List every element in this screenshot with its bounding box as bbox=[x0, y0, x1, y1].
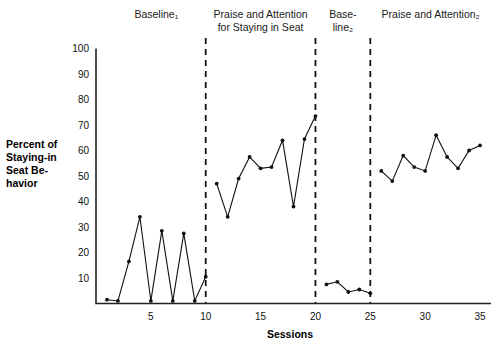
y-tick-label: 100 bbox=[72, 43, 89, 54]
data-point bbox=[182, 231, 186, 235]
data-point bbox=[401, 154, 405, 158]
y-tick-label: 20 bbox=[78, 247, 90, 258]
data-point bbox=[149, 299, 153, 303]
y-axis-title-line: havior bbox=[6, 177, 38, 189]
data-point bbox=[160, 229, 164, 233]
y-tick-label: 60 bbox=[78, 145, 90, 156]
data-point bbox=[379, 169, 383, 173]
data-point bbox=[116, 299, 120, 303]
x-tick-label: 20 bbox=[310, 311, 322, 322]
data-point bbox=[478, 144, 482, 148]
data-point bbox=[281, 138, 285, 142]
data-point bbox=[237, 177, 241, 181]
data-point bbox=[138, 215, 142, 219]
data-point bbox=[445, 155, 449, 159]
data-point bbox=[171, 299, 175, 303]
data-point bbox=[270, 165, 274, 169]
x-tick-label: 5 bbox=[148, 311, 154, 322]
y-tick-label: 40 bbox=[78, 196, 90, 207]
x-tick-label: 35 bbox=[474, 311, 486, 322]
data-point bbox=[357, 288, 361, 292]
x-tick-label: 30 bbox=[420, 311, 432, 322]
data-point bbox=[226, 215, 230, 219]
data-point bbox=[467, 149, 471, 153]
chart-container: Baseline₁Praise and Attentionfor Staying… bbox=[0, 0, 495, 344]
x-tick-label: 10 bbox=[200, 311, 212, 322]
phase-label-baseline-2: Base- bbox=[329, 8, 357, 20]
data-point bbox=[325, 282, 329, 286]
data-point bbox=[303, 137, 307, 141]
x-tick-label: 15 bbox=[255, 311, 267, 322]
y-axis-title-line: Staying-in bbox=[6, 151, 57, 163]
data-point bbox=[127, 260, 131, 264]
x-tick-label: 25 bbox=[365, 311, 377, 322]
data-point bbox=[456, 166, 460, 170]
y-axis-title-line: Percent of bbox=[6, 138, 58, 150]
phase-label-praise-attention-2: Praise and Attention₂ bbox=[382, 8, 480, 20]
data-point bbox=[259, 166, 263, 170]
y-tick-label: 70 bbox=[78, 120, 90, 131]
data-point bbox=[314, 114, 318, 118]
data-point bbox=[204, 275, 208, 279]
data-point bbox=[412, 165, 416, 169]
y-tick-label: 10 bbox=[78, 273, 90, 284]
data-point bbox=[335, 280, 339, 284]
y-tick-label: 80 bbox=[78, 94, 90, 105]
phase-label-praise-attention-1: Praise and Attention bbox=[214, 8, 308, 20]
y-tick-label: 50 bbox=[78, 171, 90, 182]
data-point bbox=[434, 133, 438, 137]
data-point bbox=[423, 169, 427, 173]
phase-label-praise-attention-1: for Staying in Seat bbox=[218, 21, 304, 33]
data-point bbox=[105, 298, 109, 302]
data-point bbox=[368, 291, 372, 295]
y-tick-label: 30 bbox=[78, 222, 90, 233]
x-axis-title: Sessions bbox=[267, 328, 313, 340]
data-point bbox=[215, 182, 219, 186]
data-point bbox=[390, 179, 394, 183]
phase-label-baseline-1: Baseline₁ bbox=[134, 8, 178, 20]
y-axis-title-line: Seat Be- bbox=[6, 164, 49, 176]
data-point bbox=[248, 155, 252, 159]
data-point bbox=[346, 290, 350, 294]
data-point bbox=[292, 205, 296, 209]
phase-label-baseline-2: line₂ bbox=[333, 21, 353, 33]
y-tick-label: 90 bbox=[78, 69, 90, 80]
data-point bbox=[193, 299, 197, 303]
single-subject-line-chart: Baseline₁Praise and Attentionfor Staying… bbox=[0, 0, 495, 344]
